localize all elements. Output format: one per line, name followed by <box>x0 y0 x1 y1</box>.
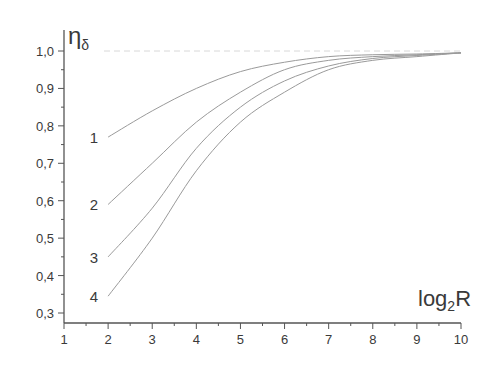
x-tick-label: 9 <box>413 332 420 347</box>
chart: 123456789100,30,40,50,60,70,80,91,0 1234… <box>0 0 498 376</box>
curve-labels: 1234 <box>90 129 98 305</box>
y-tick-label: 0,6 <box>36 194 54 209</box>
y-tick-label: 1,0 <box>36 44 54 59</box>
curve-1 <box>108 53 461 137</box>
curve-label-3: 3 <box>90 249 98 266</box>
x-tick-label: 8 <box>369 332 376 347</box>
x-axis-title: log2R <box>418 286 471 314</box>
x-tick-label: 2 <box>104 332 111 347</box>
axes <box>64 30 461 323</box>
x-tick-label: 4 <box>193 332 200 347</box>
curve-label-4: 4 <box>90 288 98 305</box>
y-tick-label: 0,5 <box>36 231 54 246</box>
x-tick-label: 7 <box>325 332 332 347</box>
curve-label-2: 2 <box>90 196 98 213</box>
curve-4 <box>108 53 461 296</box>
curve-2 <box>108 53 461 205</box>
y-tick-label: 0,4 <box>36 269 54 284</box>
x-tick-label: 3 <box>149 332 156 347</box>
y-tick-label: 0,8 <box>36 119 54 134</box>
axis-ticks: 123456789100,30,40,50,60,70,80,91,0 <box>36 44 468 347</box>
curves <box>108 53 461 296</box>
x-tick-label: 5 <box>237 332 244 347</box>
y-tick-label: 0,7 <box>36 156 54 171</box>
y-tick-label: 0,9 <box>36 81 54 96</box>
x-tick-label: 6 <box>281 332 288 347</box>
y-tick-label: 0,3 <box>36 306 54 321</box>
y-axis-title: ηδ <box>68 22 89 53</box>
curve-label-1: 1 <box>90 129 98 146</box>
x-tick-label: 10 <box>454 332 468 347</box>
x-tick-label: 1 <box>60 332 67 347</box>
